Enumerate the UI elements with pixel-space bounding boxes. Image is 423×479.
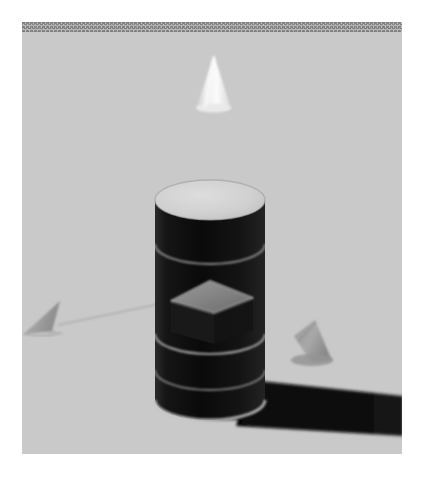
object-label-cylinder: large-dark-cylinder	[0, 0, 1, 1]
objects-layer	[22, 22, 402, 454]
object-label-thread: thin-connector-line	[0, 0, 1, 1]
scene-object-count: 5	[0, 0, 1, 1]
object-label-left-cone: left-gray-cone	[0, 0, 1, 1]
object-label-top-cone: floating-white-cone	[0, 0, 1, 1]
render-canvas	[22, 22, 402, 454]
object-label-cube: gray-cube-on-cylinder	[0, 0, 1, 1]
right-gray-cone	[291, 320, 333, 366]
floating-white-cone	[196, 55, 231, 113]
scene-title: Rendered 3D shape scene	[0, 0, 1, 1]
object-label-right-cone: right-gray-cone	[0, 0, 1, 1]
object-label-shadow: cast-shadow	[0, 0, 1, 1]
left-gray-cone	[24, 301, 62, 336]
page-frame: Rendered 3D shape scene 5 top-left key l…	[0, 0, 423, 479]
scene-lighting: top-left key light	[0, 0, 1, 1]
scene-shadow-direction: right	[0, 0, 1, 1]
